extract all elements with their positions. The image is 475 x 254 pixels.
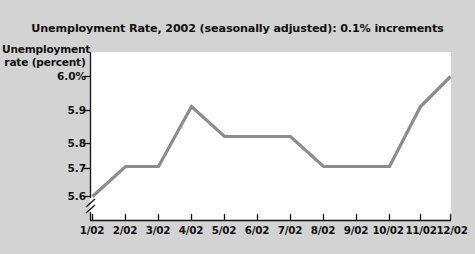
chart-figure: Unemployment Rate, 2002 (seasonally adju… bbox=[0, 0, 475, 254]
unemployment-rate-line bbox=[93, 77, 451, 197]
chart-series-layer bbox=[0, 0, 475, 254]
